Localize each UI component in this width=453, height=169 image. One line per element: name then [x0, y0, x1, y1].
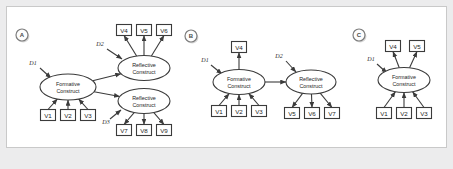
indicator-label: V1	[380, 110, 388, 117]
construct-label-line2: Construct	[392, 81, 416, 87]
disturbance-label: D2	[95, 41, 103, 47]
construct-formative[interactable]	[40, 74, 96, 100]
construct-label-line1: Formative	[56, 81, 80, 87]
indicator-path	[311, 94, 312, 108]
indicator-label: V2	[235, 108, 243, 115]
construct-label-line1: Formative	[227, 76, 251, 82]
construct-label-line2: Construct	[227, 83, 251, 89]
construct-reflective[interactable]	[286, 70, 336, 94]
disturbance-label: D2	[274, 53, 282, 59]
construct-label-line1: Reflective	[132, 62, 156, 68]
indicator-label: V3	[255, 108, 263, 115]
disturbance-label: D1	[28, 60, 36, 66]
indicator-label: V5	[140, 27, 148, 34]
construct-reflective[interactable]	[118, 56, 170, 81]
construct-label-line1: Formative	[392, 74, 416, 80]
indicator-label: V2	[400, 110, 408, 117]
construct-formative[interactable]	[213, 70, 265, 95]
panel-badge-label: B	[189, 33, 194, 39]
indicator-label: V1	[44, 112, 52, 119]
indicator-label: V4	[235, 44, 243, 51]
indicator-label: V9	[160, 127, 168, 134]
indicator-label: V5	[413, 43, 421, 50]
figure-container: D1D2D3FormativeConstructReflectiveConstr…	[0, 0, 453, 169]
indicator-label: V3	[84, 112, 92, 119]
construct-formative[interactable]	[378, 68, 430, 93]
construct-label-line2: Construct	[56, 88, 80, 94]
construct-label-line2: Construct	[132, 69, 156, 75]
indicator-label: V7	[120, 127, 128, 134]
indicator-label: V5	[288, 110, 296, 117]
construct-label-line1: Reflective	[299, 76, 323, 82]
indicator-label: V7	[328, 110, 336, 117]
indicator-label: V3	[420, 110, 428, 117]
indicator-label: V4	[389, 43, 397, 50]
indicator-label: V1	[215, 108, 223, 115]
construct-label-line1: Reflective	[132, 95, 156, 101]
indicator-label: V6	[308, 110, 316, 117]
disturbance-label: D3	[101, 119, 109, 125]
disturbance-label: D1	[200, 57, 208, 63]
panel-badge-label: C	[357, 32, 362, 38]
construct-label-line2: Construct	[132, 102, 156, 108]
panel-badge-label: A	[20, 32, 25, 38]
indicator-label: V8	[140, 127, 148, 134]
diagram-canvas: D1D2D3FormativeConstructReflectiveConstr…	[0, 0, 453, 169]
indicator-label: V2	[64, 112, 72, 119]
disturbance-label: D1	[366, 56, 374, 62]
construct-label-line2: Construct	[299, 83, 323, 89]
indicator-label: V6	[160, 27, 168, 34]
construct-reflective[interactable]	[118, 89, 170, 114]
indicator-label: V4	[120, 27, 128, 34]
